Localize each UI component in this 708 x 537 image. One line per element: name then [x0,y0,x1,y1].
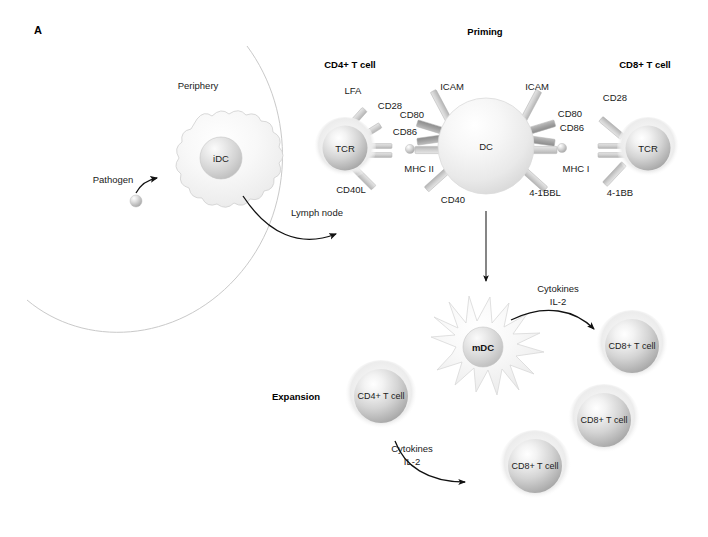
pathogen-uptake-arrow [136,178,157,193]
cd4-label-cd40l: CD40L [336,184,366,195]
figure-svg: A Periphery Lymph node iDC Pathogen Prim… [0,0,708,537]
cd4-cell-title: CD4+ T cell [324,59,375,70]
idc-cell: iDC [176,111,283,208]
mdc-cell: mDC [431,296,544,395]
idc-label: iDC [213,153,229,164]
priming-title: Priming [467,26,503,37]
cd8-label-cd28: CD28 [603,92,627,103]
cd4-t-cell-expansion: CD4+ T cell [345,360,417,432]
dc-label-cd40: CD40 [441,194,465,205]
cytokines-top-group: Cytokines IL-2 [511,283,594,329]
cd8-tcr-label: TCR [638,143,658,154]
cd8-t-cell-expansion-2: CD8+ T cell [568,384,640,456]
cd8-cell-title: CD8+ T cell [619,59,670,70]
pathogen-label: Pathogen [93,174,134,185]
dc-label-icam-left: ICAM [440,81,464,92]
dc-label-mhc2: MHC II [404,163,434,174]
cd8-label-41bb: 4-1BB [607,187,633,198]
mdc-label: mDC [472,342,494,353]
cd8-t-cell-priming: CD8+ T cell TCR CD28 4-1BB [598,59,679,198]
lymph-node-label: Lymph node [291,207,343,218]
dc-label-icam-right: ICAM [525,81,549,92]
dc-label-cd80-left: CD80 [400,109,424,120]
periphery-region: Periphery Lymph node [27,46,343,332]
panel-label: A [34,24,42,36]
cd8-exp2-label: CD8+ T cell [581,415,628,425]
cd4-tcr-label: TCR [335,143,355,154]
cd4-exp-label: CD4+ T cell [358,391,405,401]
dc-label-cd80-right: CD80 [558,108,582,119]
pathogen-particle [130,195,142,207]
cytokines-top-line2: IL-2 [550,296,566,307]
cd8-exp3-label: CD8+ T cell [512,461,559,471]
dc-cell: DC ICAM CD80 CD86 MHC II CD40 ICAM CD80 … [393,81,590,205]
expansion-title: Expansion [272,391,320,402]
dc-label-cd86-left: CD86 [393,126,417,137]
cd8-t-cell-expansion-3: CD8+ T cell [499,430,571,502]
dc-label-mhc1: MHC I [563,163,590,174]
cd8-t-cell-expansion-1: CD8+ T cell [596,310,668,382]
dc-label-cd86-right: CD86 [560,122,584,133]
cytokines-bottom-line1: Cytokines [391,443,433,454]
cytokines-top-line1: Cytokines [537,283,579,294]
peptide-bead-mhc2 [405,144,414,153]
dc-label-41bbl: 4-1BBL [529,187,561,198]
periphery-label: Periphery [178,80,219,91]
figure-canvas: A Periphery Lymph node iDC Pathogen Prim… [0,0,708,537]
peptide-bead-mhc1 [557,143,566,152]
cytokines-bottom-group: Cytokines IL-2 [391,441,465,482]
cd4-label-cd28: CD28 [378,100,402,111]
pathogen-group: Pathogen [93,174,157,207]
cd4-t-cell-priming: CD4+ T cell TCR LFA CD28 CD40L [314,59,402,195]
cd4-label-lfa: LFA [345,85,363,96]
cd8-exp1-label: CD8+ T cell [609,341,656,351]
dc-label: DC [479,141,493,152]
